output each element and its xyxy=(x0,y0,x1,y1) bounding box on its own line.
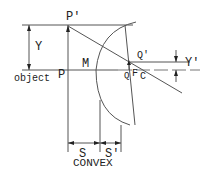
s-arrow-left-icon xyxy=(68,141,74,145)
y-prime-arrow-down-icon xyxy=(174,56,178,62)
s-prime-arrow-left-icon xyxy=(100,141,106,145)
s-arrow-right-icon xyxy=(94,141,100,145)
label-p: P xyxy=(58,68,65,82)
diagram-title: CONVEX xyxy=(73,157,113,169)
convex-mirror-diagram: P' Y object P M Q' Q F C Y' S S' CONVEX xyxy=(0,0,213,183)
y-arrow-up-icon xyxy=(27,25,31,31)
label-p-prime: P' xyxy=(66,10,80,24)
label-q-prime: Q' xyxy=(137,50,149,61)
s-prime-arrow-right-icon xyxy=(115,141,121,145)
label-object: object xyxy=(14,73,50,84)
y-prime-arrow-up-icon xyxy=(174,70,178,76)
label-q: Q xyxy=(124,71,129,81)
label-f: F xyxy=(132,68,138,79)
y-arrow-down-icon xyxy=(27,64,31,70)
label-c: C xyxy=(140,71,146,82)
label-y-prime: Y' xyxy=(185,56,199,70)
label-y: Y xyxy=(35,40,42,54)
label-m: M xyxy=(82,57,89,71)
